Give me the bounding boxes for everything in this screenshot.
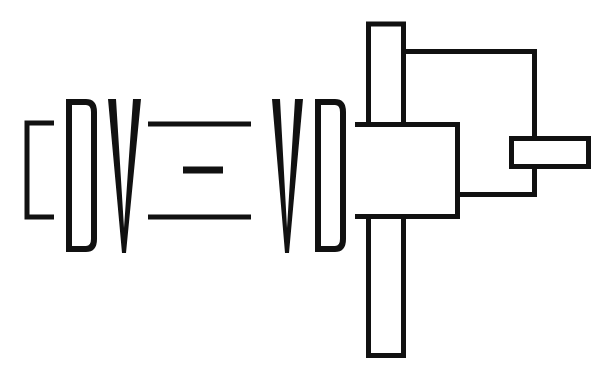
vertical-bar-top [369, 24, 404, 124]
letter-v-1 [108, 99, 141, 253]
letter-d-2 [318, 102, 343, 249]
letter-d-1 [69, 102, 94, 249]
logo-canvas: DV = VD [0, 0, 609, 382]
feedback-line-bottom [458, 166, 535, 195]
vertical-bar-bottom [369, 217, 404, 356]
letter-v-2 [272, 99, 303, 253]
left-bracket [27, 123, 54, 217]
small-box [512, 139, 589, 167]
logo-diagram [0, 0, 609, 382]
horizontal-box [355, 125, 458, 217]
